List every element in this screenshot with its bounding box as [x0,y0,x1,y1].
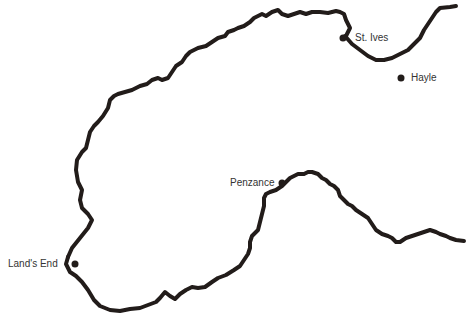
town-markers [0,0,469,316]
label-lands-end: Land's End [8,258,58,270]
lands-end-dot-icon [72,261,79,268]
st-ives-dot-icon [340,35,347,42]
penzance-dot-icon [279,180,286,187]
label-st-ives: St. Ives [355,32,388,44]
label-penzance: Penzance [230,177,274,189]
label-hayle: Hayle [411,72,437,84]
hayle-dot-icon [398,75,405,82]
